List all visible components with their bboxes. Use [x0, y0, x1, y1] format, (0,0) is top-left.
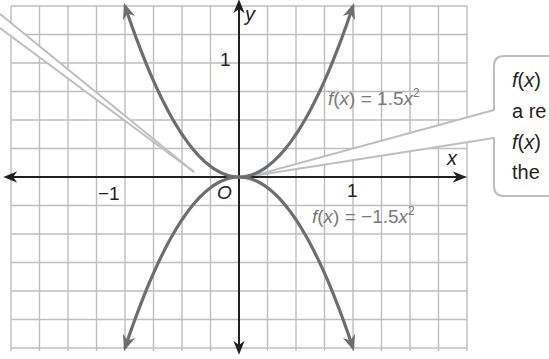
- callout-line-4: the: [512, 162, 540, 182]
- equation-bottom: f(x) = −1.5x2: [312, 205, 415, 226]
- y-tick-label-1: 1: [220, 50, 231, 69]
- coordinate-plane: [0, 0, 549, 359]
- x-axis-label: x: [447, 148, 457, 168]
- callout-line-2: a re: [512, 101, 546, 121]
- graph-figure: y x 1 −1 1 O f(x) = 1.5x2 f(x) = −1.5x2 …: [0, 0, 549, 359]
- callout-line-1: f(x): [512, 70, 541, 90]
- y-axis-label: y: [245, 4, 255, 24]
- callout-line-3: f(x): [512, 132, 541, 152]
- origin-label: O: [217, 183, 232, 202]
- x-tick-label-neg1: −1: [98, 184, 120, 203]
- equation-top: f(x) = 1.5x2: [328, 87, 420, 108]
- x-tick-label-1: 1: [347, 181, 358, 200]
